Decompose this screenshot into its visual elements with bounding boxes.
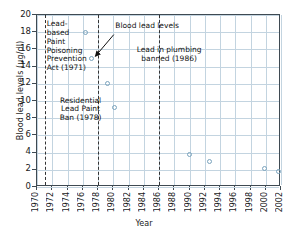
grid-line-vertical [251, 15, 252, 185]
data-point [112, 105, 117, 110]
x-tick-label: 1970 [32, 192, 40, 212]
grid-line-horizontal [37, 170, 279, 171]
x-axis-label: Year [0, 219, 288, 228]
grid-line-vertical [205, 15, 206, 185]
grid-line-vertical [129, 15, 130, 185]
annotation-plumbing-ban: Lead in plumbing banned (1986) [137, 46, 202, 64]
grid-line-horizontal [37, 153, 279, 154]
x-tick-label: 2002 [276, 192, 284, 212]
x-tick-label: 1984 [139, 192, 147, 212]
y-tick-label: 8 [1, 113, 31, 122]
grid-line-horizontal [37, 187, 279, 188]
grid-line-vertical [266, 15, 267, 185]
grid-line-horizontal [37, 15, 279, 16]
grid-line-vertical [144, 15, 145, 185]
x-tick-label: 1982 [124, 192, 132, 212]
chart-figure: Blood lead levels (μg/dl) Year 024681012… [0, 0, 288, 234]
x-tick-label: 1990 [185, 192, 193, 212]
x-tick-label: 1978 [93, 192, 101, 212]
x-tick-label: 1974 [63, 192, 71, 212]
x-tick-label: 1992 [200, 192, 208, 212]
annotation-lead-paint-act: Lead- based Paint Poisoning Prevention A… [47, 20, 87, 73]
annotation-series-callout: Blood lead levels [115, 22, 179, 31]
x-tick-label: 2000 [261, 192, 269, 212]
grid-line-vertical [113, 15, 114, 185]
y-tick-label: 14 [1, 61, 31, 70]
x-tick-label: 1994 [215, 192, 223, 212]
grid-line-horizontal [37, 135, 279, 136]
y-tick-label: 0 [1, 182, 31, 191]
x-tick-label: 1996 [230, 192, 238, 212]
x-tick-label: 1998 [246, 192, 254, 212]
annotation-residential-ban: Residential Lead Paint Ban (1978) [60, 97, 102, 124]
x-tick-label: 1980 [108, 192, 116, 212]
data-point [89, 56, 94, 61]
grid-line-vertical [174, 15, 175, 185]
grid-line-vertical [235, 15, 236, 185]
y-tick-label: 20 [1, 10, 31, 19]
y-tick-label: 2 [1, 164, 31, 173]
event-line-1971 [45, 15, 46, 185]
grid-line-vertical [190, 15, 191, 185]
x-tick-mark [280, 186, 281, 190]
y-tick-label: 6 [1, 130, 31, 139]
x-tick-label: 1986 [154, 192, 162, 212]
data-point [207, 159, 212, 164]
grid-line-vertical [281, 15, 282, 185]
event-line-1986 [159, 15, 160, 185]
x-tick-label: 1976 [78, 192, 86, 212]
y-tick-label: 12 [1, 78, 31, 87]
grid-line-vertical [37, 15, 38, 185]
data-point [187, 152, 192, 157]
y-tick-label: 10 [1, 96, 31, 105]
data-point [105, 81, 110, 86]
y-tick-label: 18 [1, 27, 31, 36]
grid-line-vertical [220, 15, 221, 185]
grid-line-horizontal [37, 84, 279, 85]
x-tick-label: 1972 [47, 192, 55, 212]
x-tick-label: 1988 [169, 192, 177, 212]
y-tick-label: 4 [1, 147, 31, 156]
y-tick-label: 16 [1, 44, 31, 53]
